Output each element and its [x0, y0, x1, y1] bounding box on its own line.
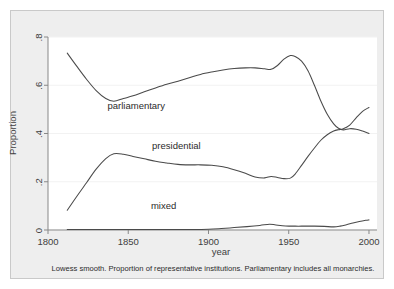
y-tick-label: .6 [33, 82, 44, 90]
x-axis-title: year [212, 246, 230, 257]
series-label-parliamentary: parliamentary [107, 100, 165, 111]
chart-figure: 0.2.4.6.8 18001850190019502000 parliamen… [0, 0, 394, 289]
y-axis-title: Proportion [7, 111, 18, 155]
x-tick-label: 1850 [118, 236, 139, 247]
x-tick-labels: 18001850190019502000 [37, 230, 379, 247]
y-tick-label: .2 [33, 178, 44, 186]
x-tick-label: 1950 [278, 236, 299, 247]
series-label-mixed: mixed [151, 200, 176, 211]
chart-canvas: 0.2.4.6.8 18001850190019502000 parliamen… [0, 0, 394, 289]
y-tick-label: 0 [33, 228, 44, 233]
series-label-presidential: presidential [152, 140, 201, 151]
x-tick-label: 1800 [37, 236, 58, 247]
y-tick-label: .4 [33, 130, 44, 138]
y-tick-label: .8 [33, 34, 44, 42]
y-tick-labels: 0.2.4.6.8 [33, 34, 49, 234]
x-tick-label: 2000 [358, 236, 379, 247]
figure-caption: Lowess smooth. Proportion of representat… [52, 264, 375, 273]
